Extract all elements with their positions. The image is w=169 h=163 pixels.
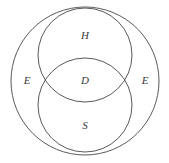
upper-circle-h (38, 8, 132, 102)
venn-diagram-canvas: H D S E E (0, 0, 169, 163)
label-d-intersection: D (80, 74, 89, 86)
label-h: H (80, 29, 90, 41)
label-e-right: E (141, 74, 149, 86)
label-s: S (82, 119, 88, 131)
venn-diagram-figure: H D S E E (0, 0, 169, 163)
label-e-left: E (23, 74, 31, 86)
lower-circle-s (38, 58, 132, 152)
